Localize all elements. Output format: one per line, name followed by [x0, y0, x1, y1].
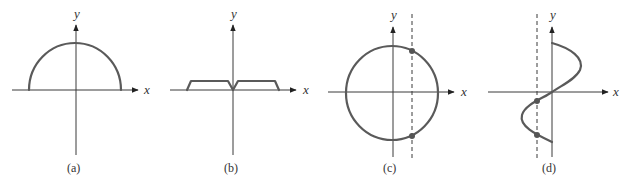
panel-a: y x (a): [12, 6, 150, 175]
panel-caption: (a): [67, 161, 80, 175]
y-axis-label: y: [72, 6, 80, 21]
x-axis-label: x: [612, 84, 619, 99]
x-axis-label: x: [302, 82, 309, 97]
intersection-point: [409, 133, 415, 139]
y-axis-label: y: [229, 6, 237, 21]
figure-canvas: y x (a) y x (b) y x (c) y x (d): [0, 0, 634, 187]
y-axis-label: y: [389, 7, 397, 22]
panel-caption: (d): [542, 161, 556, 175]
panel-d: y x (d): [488, 7, 619, 175]
semicircle-curve: [29, 43, 121, 90]
y-axis-label: y: [548, 7, 556, 22]
intersection-point: [534, 98, 540, 104]
intersection-point: [409, 48, 415, 54]
panel-b: y x (b): [170, 6, 309, 175]
panel-caption: (c): [383, 161, 396, 175]
panel-caption: (b): [224, 161, 238, 175]
intersection-point: [534, 132, 540, 138]
x-axis-label: x: [143, 82, 150, 97]
x-axis-label: x: [460, 84, 467, 99]
circle-curve: [346, 46, 438, 140]
panel-c: y x (c): [328, 7, 467, 175]
